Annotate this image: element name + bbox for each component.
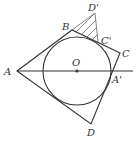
label-c-prime: C' — [101, 35, 111, 46]
label-a: A — [3, 66, 11, 77]
geometry-diagram: A B C D O A' C' D' — [0, 0, 138, 145]
label-c: C — [122, 48, 130, 59]
label-d: D — [86, 127, 95, 138]
center-point-o — [75, 69, 78, 72]
label-d-prime: D' — [87, 2, 99, 13]
label-a-prime: A' — [111, 74, 122, 85]
label-b: B — [61, 21, 69, 32]
label-o: O — [72, 57, 80, 68]
